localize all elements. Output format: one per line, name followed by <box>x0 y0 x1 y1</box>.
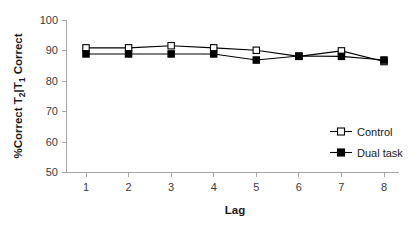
y-tick-label-70: 70 <box>46 105 58 117</box>
data-point-control-lag2 <box>125 45 131 51</box>
y-tick-label-80: 80 <box>46 75 58 87</box>
data-point-dual-task-lag4 <box>211 51 217 57</box>
x-tick-label-5: 5 <box>253 181 259 193</box>
chart-canvas: 50 60 70 80 90 100 1 2 3 4 5 6 7 8 <box>0 0 419 232</box>
y-axis-title-suffix: Correct <box>12 33 24 77</box>
data-point-dual-task-lag3 <box>168 51 174 57</box>
x-tick-label-6: 6 <box>296 181 302 193</box>
y-tick-label-100: 100 <box>40 14 58 26</box>
data-point-dual-task-lag2 <box>125 51 131 57</box>
legend-label-dual-task: Dual task <box>357 147 403 159</box>
x-axis-title: Lag <box>225 204 245 216</box>
data-point-dual-task-lag1 <box>83 51 89 57</box>
legend-marker-dual-task <box>338 149 345 156</box>
x-tick-label-2: 2 <box>126 181 132 193</box>
data-point-control-lag5 <box>253 47 259 53</box>
chart-background <box>0 0 419 232</box>
y-tick-label-60: 60 <box>46 136 58 148</box>
data-point-control-lag3 <box>168 43 174 49</box>
data-point-dual-task-lag6 <box>296 53 302 59</box>
y-axis-title-mid: |T <box>12 82 24 92</box>
data-point-dual-task-lag7 <box>338 53 344 59</box>
data-point-dual-task-lag8 <box>381 57 387 63</box>
x-tick-label-7: 7 <box>338 181 344 193</box>
x-tick-label-4: 4 <box>211 181 217 193</box>
data-point-dual-task-lag5 <box>253 57 259 63</box>
legend-label-control: Control <box>357 126 392 138</box>
x-tick-label-1: 1 <box>83 181 89 193</box>
data-point-control-lag4 <box>211 45 217 51</box>
line-chart-figure: 50 60 70 80 90 100 1 2 3 4 5 6 7 8 <box>0 0 419 232</box>
y-tick-label-50: 50 <box>46 166 58 178</box>
data-point-control-lag1 <box>83 45 89 51</box>
x-tick-label-3: 3 <box>168 181 174 193</box>
x-tick-label-8: 8 <box>381 181 387 193</box>
y-tick-label-90: 90 <box>46 44 58 56</box>
y-axis-title-prefix: %Correct T <box>12 97 24 158</box>
legend-marker-control <box>338 128 345 135</box>
